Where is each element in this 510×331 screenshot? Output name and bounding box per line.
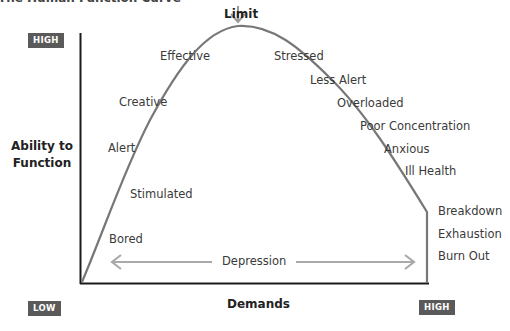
label-stressed: Stressed (274, 51, 324, 63)
label-burn-out: Burn Out (438, 251, 490, 263)
x-axis-label: Demands (227, 298, 290, 310)
label-overloaded: Overloaded (337, 98, 404, 110)
label-bored: Bored (109, 234, 143, 246)
label-poor-concentration: Poor Concentration (360, 121, 470, 133)
label-creative: Creative (119, 97, 167, 109)
y-high-badge: HIGH (28, 33, 64, 48)
label-effective: Effective (160, 51, 210, 63)
label-less-alert: Less Alert (310, 75, 366, 87)
label-exhaustion: Exhaustion (438, 229, 502, 241)
label-alert: Alert (108, 143, 135, 155)
label-depression: Depression (222, 256, 286, 268)
y-low-badge: LOW (28, 301, 61, 316)
label-breakdown: Breakdown (438, 206, 502, 218)
label-stimulated: Stimulated (130, 189, 193, 201)
limit-label: Limit (224, 8, 258, 20)
y-axis-label: Ability to Function (11, 138, 73, 172)
label-ill-health: Ill Health (405, 166, 456, 178)
y-axis-label-line2: Function (11, 155, 73, 172)
y-axis-label-line1: Ability to (11, 138, 73, 155)
x-high-badge: HIGH (419, 300, 455, 315)
label-anxious: Anxious (384, 144, 429, 156)
